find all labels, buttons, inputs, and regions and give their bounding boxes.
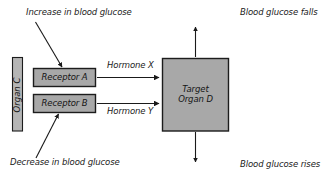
- organ-c-shape: [13, 58, 23, 132]
- glucose-rises-label: Blood glucose rises: [240, 160, 320, 170]
- diagram-vector-layer: [0, 0, 329, 182]
- receptor-a-shape: [34, 69, 96, 87]
- increase-glucose-label: Increase in blood glucose: [26, 8, 132, 18]
- increase-glucose-arrow: [36, 22, 63, 67]
- hormone-y-label: Hormone Y: [107, 107, 153, 117]
- hormone-x-label: Hormone X: [107, 61, 154, 71]
- target-organ-d-shape: [163, 59, 229, 132]
- glucose-falls-label: Blood glucose falls: [240, 8, 318, 18]
- diagram-canvas: Increase in blood glucose Decrease in bl…: [0, 0, 329, 182]
- receptor-b-shape: [34, 95, 96, 113]
- decrease-glucose-label: Decrease in blood glucose: [10, 158, 120, 168]
- decrease-glucose-arrow: [36, 114, 59, 158]
